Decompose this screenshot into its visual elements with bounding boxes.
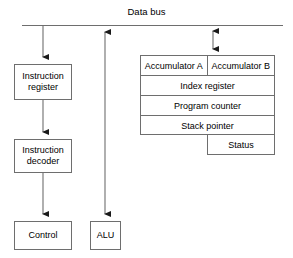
instruction-decoder-label: Instruction decoder xyxy=(22,145,64,167)
accumulator-row: Accumulator A Accumulator B xyxy=(141,56,274,76)
stack-pointer-label: Stack pointer xyxy=(181,121,234,131)
instruction-register-label: Instruction register xyxy=(22,71,64,93)
accumulator-a-cell[interactable]: Accumulator A xyxy=(141,56,208,75)
program-counter-row[interactable]: Program counter xyxy=(141,96,274,116)
control-box[interactable]: Control xyxy=(14,221,72,250)
index-register-label: Index register xyxy=(180,81,235,91)
instruction-decoder-box[interactable]: Instruction decoder xyxy=(14,139,72,173)
control-label: Control xyxy=(15,230,71,241)
accumulator-a-label: Accumulator A xyxy=(145,61,203,71)
status-register-cell[interactable]: Status xyxy=(207,135,275,155)
alu-label: ALU xyxy=(91,230,120,241)
cpu-block-diagram: Data bus Instruction register xyxy=(0,0,293,258)
accumulator-b-label: Accumulator B xyxy=(211,61,270,71)
instruction-register-label-line2: register xyxy=(22,82,64,93)
stack-pointer-row[interactable]: Stack pointer xyxy=(141,116,274,136)
instruction-register-box[interactable]: Instruction register xyxy=(14,64,72,100)
alu-box[interactable]: ALU xyxy=(90,221,121,250)
status-register-label: Status xyxy=(228,140,254,150)
register-block: Accumulator A Accumulator B Index regist… xyxy=(140,55,275,135)
program-counter-label: Program counter xyxy=(174,101,241,111)
index-register-row[interactable]: Index register xyxy=(141,76,274,96)
accumulator-b-cell[interactable]: Accumulator B xyxy=(208,56,275,75)
instruction-register-label-line1: Instruction xyxy=(22,71,64,82)
instruction-decoder-label-line2: decoder xyxy=(22,156,64,167)
data-bus-label: Data bus xyxy=(0,6,293,17)
instruction-decoder-label-line1: Instruction xyxy=(22,145,64,156)
